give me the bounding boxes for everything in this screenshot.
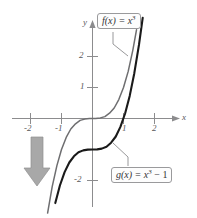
g-callout-base: g(x) = x bbox=[116, 169, 148, 180]
shift-arrow-icon bbox=[24, 137, 50, 186]
x-tick-label-neg2: -2 bbox=[24, 124, 32, 133]
y-tick-label-pos1: 1 bbox=[80, 82, 85, 91]
x-tick-label-pos2: 2 bbox=[152, 124, 157, 133]
f-function-callout: f(x) = x3 bbox=[97, 13, 141, 29]
y-axis-label: y bbox=[83, 18, 87, 27]
f-callout-leader bbox=[113, 32, 128, 56]
x-tick-label-neg1: -1 bbox=[55, 124, 63, 133]
y-tick-label-pos2: 2 bbox=[79, 51, 84, 60]
plot-canvas bbox=[0, 0, 197, 218]
y-axis-arrowhead bbox=[89, 20, 95, 28]
g-callout-tail: − 1 bbox=[152, 169, 168, 180]
g-function-callout: g(x) = x3 − 1 bbox=[111, 167, 172, 183]
x-axis-arrowhead bbox=[172, 115, 180, 121]
f-callout-exponent: 3 bbox=[132, 14, 136, 22]
y-tick-label-neg2: -2 bbox=[74, 175, 82, 184]
callout-leaders bbox=[113, 32, 128, 166]
function-graph-figure: -2 -1 1 2 2 1 -2 x y f(x) = x3 g(x) = x3… bbox=[0, 0, 197, 218]
x-axis-label: x bbox=[182, 113, 186, 122]
f-callout-base: f(x) = x bbox=[102, 15, 132, 26]
x-tick-label-pos1: 1 bbox=[122, 124, 127, 133]
g-callout-leader bbox=[113, 143, 128, 166]
